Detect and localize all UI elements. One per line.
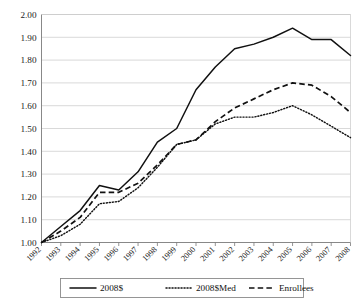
gridlines [42,15,351,220]
x-axis-tick-labels: 1992199319941995199619971998199920002001… [25,244,352,263]
x-axis-tick-label: 2008 [334,245,352,263]
y-axis-tick-label: 1.70 [20,78,36,88]
x-axis-tick-label: 1994 [63,244,82,263]
x-axis-tickmarks [42,243,351,247]
x-axis-tick-label: 2006 [295,245,313,263]
chart-container: 1.001.101.201.301.401.501.601.701.801.90… [0,0,361,305]
x-axis-tick-label: 1997 [121,245,139,263]
x-axis-tick-label: 1998 [141,245,159,263]
legend-label: 2008$ [100,283,123,293]
x-axis-tick-label: 2001 [199,245,217,263]
legend-label: 2008$Med [196,283,236,293]
y-axis-tick-label: 1.40 [20,147,36,157]
x-axis-tick-label: 1996 [102,245,120,263]
x-axis-tick-label: 1999 [160,245,178,263]
line-chart: 1.001.101.201.301.401.501.601.701.801.90… [0,0,361,305]
x-axis-tick-label: 2002 [218,245,236,263]
series-line-dashed [42,83,351,243]
y-axis-tick-label: 1.60 [20,101,36,111]
y-axis-tick-label: 1.80 [20,55,36,65]
x-axis-tick-label: 1995 [83,245,101,263]
x-axis-tick-label: 2000 [179,245,197,263]
x-axis-tick-label: 2004 [256,244,275,263]
x-axis-tick-label: 2007 [314,245,332,263]
chart-legend: 2008$2008$MedEnrollees [61,279,315,298]
y-axis-tick-label: 2.00 [20,10,36,20]
x-axis-tick-label: 2003 [237,245,255,263]
x-axis-tick-label: 2005 [276,245,294,263]
y-axis-tick-label: 1.50 [20,124,36,134]
y-axis-tick-label: 1.20 [20,192,36,202]
y-axis-tick-label: 1.30 [20,169,36,179]
y-axis-tick-label: 1.10 [20,215,36,225]
y-axis-tick-label: 1.90 [20,33,36,43]
legend-label: Enrollees [279,283,314,293]
x-axis-tick-label: 1993 [44,245,62,263]
y-axis-tick-labels: 1.001.101.201.301.401.501.601.701.801.90… [20,10,36,248]
